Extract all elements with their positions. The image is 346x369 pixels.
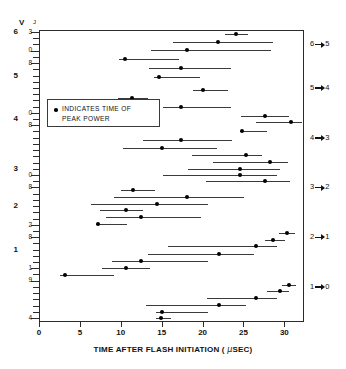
y-axis-tick bbox=[31, 125, 39, 126]
y-axis-tick bbox=[31, 113, 39, 114]
lasing-duration-bar bbox=[123, 148, 216, 149]
vibrational-transition-label: 10 bbox=[310, 283, 329, 291]
y-axis-tick bbox=[33, 88, 39, 89]
y-axis-v-label: 6 bbox=[6, 28, 18, 36]
y-axis-tick bbox=[33, 100, 39, 101]
lasing-duration-bar bbox=[256, 122, 302, 123]
x-axis-tick-label: 30 bbox=[274, 328, 294, 337]
x-axis-tick-label: 25 bbox=[233, 328, 253, 337]
y-axis-tick bbox=[33, 306, 39, 307]
lasing-duration-bar bbox=[119, 59, 180, 60]
y-axis-j-label: 0 bbox=[20, 110, 32, 117]
peak-power-marker bbox=[278, 289, 282, 293]
lasing-duration-bar bbox=[151, 50, 270, 51]
peak-power-marker bbox=[157, 75, 161, 79]
y-axis-tick bbox=[31, 268, 39, 269]
lasing-duration-bar bbox=[188, 169, 280, 170]
x-axis-tick bbox=[162, 322, 163, 327]
x-axis-tick bbox=[243, 322, 244, 327]
lasing-duration-bar bbox=[143, 140, 232, 141]
y-axis-tick bbox=[33, 169, 39, 170]
lasing-duration-bar bbox=[154, 77, 201, 78]
y-axis-j-label: 3 bbox=[20, 29, 32, 36]
vibrational-transition-label: 43 bbox=[310, 134, 329, 142]
y-axis-j-label: 0 bbox=[20, 172, 32, 179]
arrow-right-icon bbox=[314, 84, 325, 91]
y-axis-tick bbox=[33, 194, 39, 195]
x-axis-tick-label: 0 bbox=[29, 328, 49, 337]
y-axis-tick bbox=[33, 69, 39, 70]
lasing-duration-bar bbox=[100, 210, 143, 211]
peak-power-marker bbox=[179, 105, 183, 109]
lasing-duration-bar bbox=[193, 90, 228, 91]
y-axis-v-label: 3 bbox=[6, 165, 18, 173]
lasing-duration-bar bbox=[112, 261, 208, 262]
lasing-duration-bar bbox=[96, 224, 126, 225]
y-axis-j-label: 9 bbox=[20, 277, 32, 284]
peak-power-marker bbox=[263, 114, 267, 118]
y-axis-tick bbox=[33, 293, 39, 294]
lasing-duration-bar bbox=[240, 131, 266, 132]
x-axis-tick-label: 5 bbox=[70, 328, 90, 337]
peak-power-marker bbox=[254, 244, 258, 248]
y-axis-tick bbox=[33, 200, 39, 201]
x-axis-tick-label: 15 bbox=[152, 328, 172, 337]
peak-power-marker bbox=[285, 231, 289, 235]
y-axis-tick bbox=[33, 57, 39, 58]
arrow-right-icon bbox=[314, 184, 325, 191]
y-axis-v-label: 5 bbox=[6, 72, 18, 80]
peak-power-marker bbox=[244, 153, 248, 157]
y-axis-tick bbox=[33, 107, 39, 108]
x-axis-tick bbox=[39, 322, 40, 327]
peak-power-dot-icon bbox=[54, 108, 58, 112]
lasing-duration-bar bbox=[168, 246, 278, 247]
lasing-duration-bar bbox=[163, 107, 231, 108]
arrow-right-icon bbox=[314, 41, 325, 48]
x-axis-tick-label: 20 bbox=[193, 328, 213, 337]
y-axis-j-header: J bbox=[33, 19, 36, 25]
peak-power-marker bbox=[63, 273, 67, 277]
lasing-duration-bar bbox=[173, 42, 274, 43]
lasing-duration-bar bbox=[206, 181, 290, 182]
plot-area bbox=[39, 30, 304, 322]
y-axis-v-label: 1 bbox=[6, 246, 18, 254]
peak-power-marker bbox=[155, 202, 159, 206]
lasing-duration-bar bbox=[163, 175, 278, 176]
y-axis-tick bbox=[33, 144, 39, 145]
y-axis-j-label: 8 bbox=[20, 60, 32, 67]
y-axis-tick bbox=[31, 51, 39, 52]
peak-power-marker bbox=[139, 215, 143, 219]
x-axis-title: TIME AFTER FLASH INITIATION ( μSEC) bbox=[0, 345, 346, 354]
transition-to: 3 bbox=[325, 133, 329, 142]
peak-power-marker bbox=[124, 208, 128, 212]
lasing-duration-bar bbox=[106, 217, 201, 218]
peak-power-marker bbox=[185, 195, 189, 199]
vibrational-transition-label: 21 bbox=[310, 233, 329, 241]
y-axis-tick bbox=[33, 212, 39, 213]
y-axis-j-label: 8 bbox=[20, 122, 32, 129]
lasing-duration-bar bbox=[192, 155, 262, 156]
y-axis-j-label: 2 bbox=[20, 222, 32, 229]
y-axis-tick bbox=[33, 181, 39, 182]
peak-power-marker bbox=[234, 32, 238, 36]
y-axis-tick bbox=[31, 225, 39, 226]
x-axis-tick bbox=[203, 322, 204, 327]
x-axis-tick bbox=[80, 322, 81, 327]
x-axis-tick-label: 10 bbox=[111, 328, 131, 337]
y-axis-j-label: 1 bbox=[20, 265, 32, 272]
y-axis-j-label: 0 bbox=[20, 47, 32, 54]
y-axis-tick bbox=[33, 131, 39, 132]
peak-power-marker bbox=[160, 310, 164, 314]
peak-power-marker bbox=[185, 48, 189, 52]
y-axis-j-label: 4 bbox=[20, 315, 32, 322]
micro-symbol: μ bbox=[227, 345, 232, 354]
y-axis-tick bbox=[33, 262, 39, 263]
lasing-duration-bar bbox=[148, 254, 254, 255]
peak-power-marker bbox=[131, 188, 135, 192]
y-axis-tick bbox=[33, 150, 39, 151]
peak-power-marker bbox=[217, 252, 221, 256]
vibrational-transition-label: 65 bbox=[310, 40, 329, 48]
y-axis-j-label: 8 bbox=[20, 184, 32, 191]
lasing-duration-bar bbox=[146, 305, 246, 306]
lasing-duration-bar bbox=[156, 312, 208, 313]
